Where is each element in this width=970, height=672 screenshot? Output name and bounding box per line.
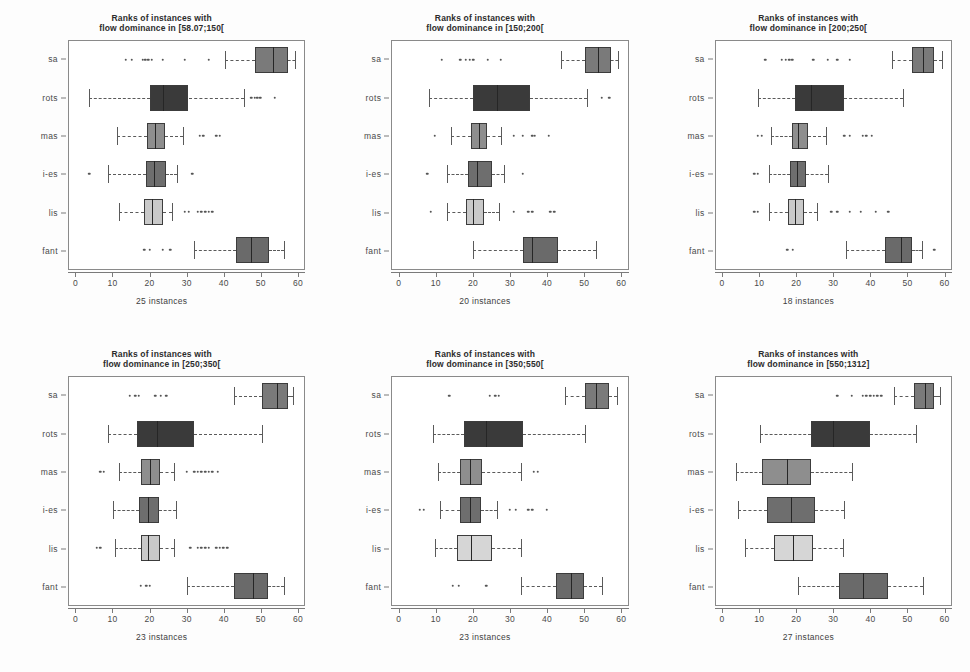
outlier-point: [196, 471, 199, 474]
whisker-high: [492, 548, 521, 549]
x-tick-mark: [945, 272, 946, 277]
x-axis: 0102030405060: [715, 272, 952, 294]
x-tick-mark: [75, 272, 76, 277]
whisker-low: [438, 472, 460, 473]
y-tick-mark: [708, 548, 713, 549]
cap-high: [903, 89, 904, 107]
outlier-point: [196, 547, 199, 550]
x-tick-label: 40: [542, 614, 552, 624]
outlier-point: [433, 135, 436, 138]
panel-grid: Ranks of instances with flow dominance i…: [0, 0, 970, 672]
y-tick-mark: [708, 471, 713, 472]
outlier-point: [217, 471, 220, 474]
y-tick-mark: [384, 174, 389, 175]
whisker-low: [89, 98, 150, 99]
panel-title: Ranks of instances with flow dominance i…: [0, 14, 323, 33]
cap-low: [561, 51, 562, 69]
x-axis: 0102030405060: [391, 272, 628, 294]
outlier-point: [165, 395, 168, 398]
outlier-point: [753, 173, 756, 176]
outlier-point: [874, 211, 877, 214]
y-tick-mark: [384, 586, 389, 587]
whisker-high: [870, 434, 916, 435]
whisker-high: [804, 212, 817, 213]
median-line: [477, 161, 478, 187]
cap-high: [826, 127, 827, 145]
boxplot-fant: [392, 231, 627, 269]
y-tick-mark: [384, 59, 389, 60]
y-tick-label-lis: lis: [372, 544, 381, 554]
whisker-low: [473, 250, 523, 251]
outlier-point: [125, 59, 128, 62]
y-tick-label-fant: fant: [42, 582, 58, 592]
y-tick-mark: [61, 548, 66, 549]
x-tick-label: 30: [828, 614, 838, 624]
boxplot-rots: [392, 79, 627, 117]
outlier-point: [169, 249, 172, 252]
whisker-high: [160, 472, 174, 473]
outlier-point: [193, 471, 196, 474]
y-tick-label-lis: lis: [695, 208, 704, 218]
median-line: [486, 421, 487, 447]
x-tick-label: 30: [828, 278, 838, 288]
cap-low: [115, 539, 116, 557]
x-tick-mark: [224, 272, 225, 277]
outlier-point: [215, 135, 218, 138]
cap-high: [596, 241, 597, 259]
outlier-point: [200, 211, 203, 214]
boxplot-lis: [716, 529, 951, 567]
y-tick-label-sa: sa: [372, 54, 382, 64]
boxplot-mas: [69, 117, 304, 155]
cap-low: [435, 539, 436, 557]
outlier-point: [204, 471, 207, 474]
cap-high: [295, 51, 296, 69]
outlier-point: [512, 135, 515, 138]
median-line: [787, 459, 788, 485]
cap-low: [451, 127, 452, 145]
outlier-point: [873, 395, 876, 398]
boxplot-sa: [392, 41, 627, 79]
cap-low: [846, 241, 847, 259]
y-tick-mark: [708, 433, 713, 434]
x-tick-label: 0: [720, 614, 725, 624]
y-tick-label-mas: mas: [364, 131, 381, 141]
median-line: [923, 47, 924, 73]
outlier-point: [849, 135, 852, 138]
panel-caption: 25 instances: [0, 296, 323, 306]
x-tick-label: 20: [145, 614, 155, 624]
outlier-point: [219, 547, 222, 550]
y-tick-label-i-es: i-es: [43, 169, 58, 179]
y-axis-labels: sarotsmasi-eslisfant: [647, 40, 713, 270]
panel-2: Ranks of instances with flow dominance i…: [323, 0, 646, 336]
y-tick-label-rots: rots: [366, 93, 382, 103]
cap-low: [234, 387, 235, 405]
outlier-point: [757, 173, 760, 176]
whisker-low: [798, 586, 838, 587]
x-tick-label: 60: [616, 278, 626, 288]
cap-low: [440, 501, 441, 519]
outlier-point: [185, 471, 188, 474]
box-iqr: [144, 199, 162, 225]
boxplot-rots: [69, 415, 304, 453]
x-tick-label: 0: [396, 278, 401, 288]
y-tick-label-fant: fant: [366, 246, 382, 256]
outlier-point: [184, 59, 187, 62]
median-line: [863, 573, 864, 599]
median-line: [277, 383, 278, 409]
whisker-low: [521, 586, 556, 587]
x-tick-mark: [870, 608, 871, 613]
boxplot-sa: [69, 41, 304, 79]
whisker-high: [811, 472, 851, 473]
y-tick-label-i-es: i-es: [689, 505, 704, 515]
outlier-point: [274, 97, 277, 100]
whisker-high: [912, 250, 921, 251]
y-tick-mark: [61, 250, 66, 251]
boxplot-fant: [392, 567, 627, 605]
whisker-low: [738, 510, 767, 511]
median-line: [497, 85, 498, 111]
outlier-point: [468, 59, 471, 62]
whisker-low: [561, 60, 585, 61]
y-tick-mark: [61, 433, 66, 434]
x-tick-label: 10: [107, 278, 117, 288]
whisker-low: [769, 212, 788, 213]
